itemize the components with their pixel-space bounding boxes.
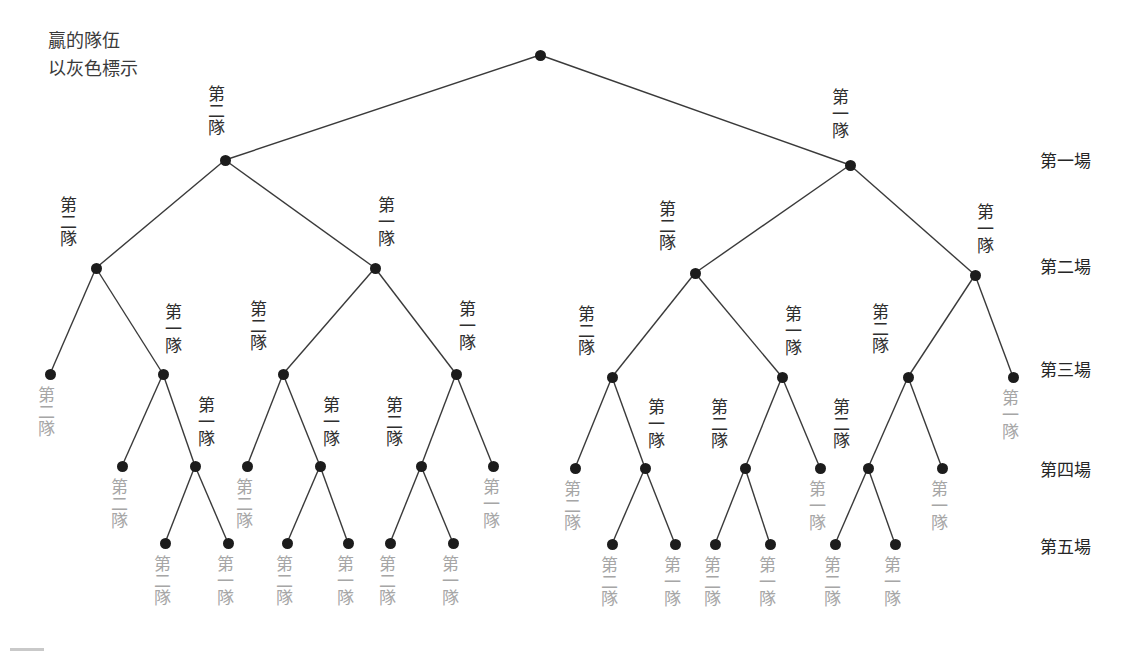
tree-node-lrlrl[interactable] xyxy=(282,538,293,549)
team-label-rrl: 第二隊 xyxy=(870,303,887,354)
tree-edge xyxy=(247,374,283,466)
tree-edge xyxy=(320,466,348,543)
team-label-rllr: 第一隊 xyxy=(646,398,663,449)
tree-edge xyxy=(835,468,868,544)
round-label-1: 第一場 xyxy=(1040,147,1091,172)
tree-node-lrl[interactable] xyxy=(278,369,289,380)
team-label-llrrl: 第二隊 xyxy=(152,555,169,606)
tree-node-ll[interactable] xyxy=(91,263,102,274)
team-label-lrlrl: 第二隊 xyxy=(274,555,291,606)
tree-node-rrr[interactable] xyxy=(1008,372,1019,383)
tree-node-rllr[interactable] xyxy=(640,463,651,474)
team-label-rlrlr: 第一隊 xyxy=(757,556,774,607)
round-label-5: 第五場 xyxy=(1040,533,1091,558)
tree-edge xyxy=(225,160,375,268)
tree-edge xyxy=(612,468,645,544)
tree-node-lrrlr[interactable] xyxy=(448,538,459,549)
team-label-rrlr: 第一隊 xyxy=(929,480,946,531)
tree-node-lrlrr[interactable] xyxy=(343,538,354,549)
tree-node-rllrl[interactable] xyxy=(607,539,618,550)
team-label-llrr: 第一隊 xyxy=(196,396,213,447)
game-tree-diagram: 贏的隊伍 以灰色標示 第二隊第一隊第二隊第一隊第二隊第一隊第二隊第一隊第二隊第一… xyxy=(0,0,1144,655)
tree-node-lrrr[interactable] xyxy=(488,461,499,472)
team-label-llrrr: 第一隊 xyxy=(215,555,232,606)
tree-node-l[interactable] xyxy=(220,155,231,166)
tree-edge xyxy=(745,377,782,468)
tree-node-lrrll[interactable] xyxy=(385,538,396,549)
team-label-rlll: 第二隊 xyxy=(562,480,579,531)
team-label-rrlll: 第二隊 xyxy=(822,556,839,607)
tree-node-rlr[interactable] xyxy=(777,372,788,383)
tree-node-lrlr[interactable] xyxy=(315,461,326,472)
tree-node-llrrr[interactable] xyxy=(223,538,234,549)
tree-node-rr[interactable] xyxy=(970,270,981,281)
team-label-ll: 第二隊 xyxy=(58,196,75,247)
tree-edge xyxy=(122,374,163,466)
tree-edge xyxy=(868,468,895,544)
tree-edge xyxy=(745,468,770,544)
team-label-lrrl: 第二隊 xyxy=(384,396,401,447)
tree-node-lrr[interactable] xyxy=(451,369,462,380)
team-label-lll: 第二隊 xyxy=(36,386,53,437)
tree-edge xyxy=(195,466,228,543)
tree-node-rlrll[interactable] xyxy=(710,539,721,550)
tree-node-rrlr[interactable] xyxy=(937,463,948,474)
tree-edge xyxy=(456,374,493,466)
tree-edge xyxy=(421,466,453,543)
tree-node-rrlll[interactable] xyxy=(830,539,841,550)
tree-edge xyxy=(165,466,195,543)
tree-node-r[interactable] xyxy=(535,50,546,61)
tree-edge xyxy=(575,377,612,468)
team-label-lrll: 第二隊 xyxy=(234,478,251,529)
tree-node-lrrl[interactable] xyxy=(416,461,427,472)
tree-edge xyxy=(908,377,942,468)
tree-node-rll[interactable] xyxy=(607,372,618,383)
tree-edge xyxy=(225,55,540,160)
tree-node-rrl[interactable] xyxy=(903,372,914,383)
tree-edge xyxy=(540,55,850,165)
tree-node-lrll[interactable] xyxy=(242,461,253,472)
tree-edge xyxy=(390,466,421,543)
legend-note: 贏的隊伍 以灰色標示 xyxy=(48,27,138,83)
tree-node-rl[interactable] xyxy=(690,268,701,279)
tree-edge xyxy=(868,377,908,468)
team-label-lrrll: 第二隊 xyxy=(377,555,394,606)
tree-node-llrl[interactable] xyxy=(117,461,128,472)
team-label-llrl: 第二隊 xyxy=(109,478,126,529)
tree-node-llr[interactable] xyxy=(158,369,169,380)
tree-node-rllrr[interactable] xyxy=(670,539,681,550)
tree-node-llrrl[interactable] xyxy=(160,538,171,549)
tree-node-rlll[interactable] xyxy=(570,463,581,474)
tree-edge xyxy=(975,275,1013,377)
team-label-lrrr: 第一隊 xyxy=(481,478,498,529)
tree-node-llrr[interactable] xyxy=(190,461,201,472)
tree-edge xyxy=(612,377,645,468)
tree-edge xyxy=(421,374,456,466)
tree-edge xyxy=(283,374,320,466)
team-label-lrrlr: 第一隊 xyxy=(440,555,457,606)
tree-node-rlrlr[interactable] xyxy=(765,539,776,550)
team-label-lrr: 第一隊 xyxy=(457,300,474,351)
tree-node-lr[interactable] xyxy=(370,263,381,274)
tree-edge xyxy=(715,468,745,544)
tree-edge xyxy=(908,275,975,377)
team-label-lrlrr: 第一隊 xyxy=(335,555,352,606)
team-label-lr: 第一隊 xyxy=(376,196,393,247)
tree-node-rlrr[interactable] xyxy=(815,463,826,474)
tree-node-rrllr[interactable] xyxy=(890,539,901,550)
tree-edge xyxy=(850,165,975,275)
tree-edge xyxy=(645,468,675,544)
tree-node-rrll[interactable] xyxy=(863,463,874,474)
caption-rule xyxy=(10,648,44,651)
team-label-rrllr: 第一隊 xyxy=(882,556,899,607)
team-label-rllrl: 第二隊 xyxy=(599,556,616,607)
tree-edge xyxy=(782,377,820,468)
team-label-r: 第一隊 xyxy=(830,88,847,139)
tree-edge xyxy=(283,268,375,374)
tree-node-rlrl[interactable] xyxy=(740,463,751,474)
team-label-rrr: 第一隊 xyxy=(1000,389,1017,440)
tree-node-r[interactable] xyxy=(845,160,856,171)
tree-edge xyxy=(695,165,850,273)
tree-node-lll[interactable] xyxy=(45,369,56,380)
team-label-l: 第二隊 xyxy=(206,85,223,136)
